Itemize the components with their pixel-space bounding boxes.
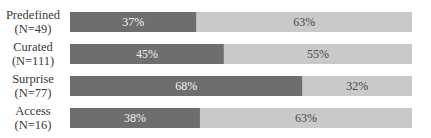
bars-group: 37%63%45%55%68%32%38%63% (70, 12, 412, 128)
data-label: 63% (293, 15, 315, 29)
category-n-label: (N=49) (15, 22, 52, 36)
category-n-label: (N=16) (15, 118, 52, 132)
data-label: 68% (175, 79, 197, 93)
category-label: Predefined (6, 8, 61, 22)
category-label: Surprise (12, 72, 54, 86)
category-label: Curated (13, 40, 53, 54)
category-n-label: (N=77) (15, 86, 52, 100)
data-label: 63% (295, 111, 317, 125)
data-label: 37% (122, 15, 144, 29)
category-labels-group: Predefined(N=49)Curated(N=111)Surprise(N… (6, 8, 61, 132)
data-label: 45% (136, 47, 158, 61)
data-label: 38% (124, 111, 146, 125)
category-n-label: (N=111) (12, 54, 54, 68)
category-label: Access (15, 104, 51, 118)
data-label: 55% (307, 47, 329, 61)
stacked-bar-chart: 37%63%45%55%68%32%38%63% Predefined(N=49… (0, 0, 431, 138)
data-label: 32% (346, 79, 368, 93)
